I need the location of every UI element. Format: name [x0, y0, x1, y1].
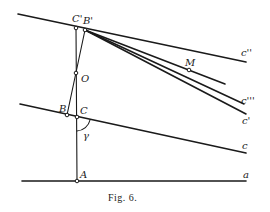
- line-through-m: [85, 30, 225, 84]
- point-c-prime: [74, 26, 78, 30]
- label-line-c-triple-prime: c''': [241, 95, 255, 106]
- point-b-prime: [83, 28, 87, 32]
- label-o: O: [81, 73, 89, 84]
- point-a: [75, 179, 79, 183]
- point-c: [75, 115, 79, 119]
- label-m: M: [184, 57, 196, 68]
- label-c-prime: C': [72, 13, 82, 24]
- label-b-prime: B': [82, 15, 93, 26]
- label-b: B: [58, 103, 66, 114]
- point-o: [74, 71, 78, 75]
- label-line-c-double-prime: c'': [241, 47, 252, 58]
- line-c-prime: [85, 30, 246, 114]
- figure-caption: Fig. 6.: [108, 192, 137, 203]
- label-line-c-prime: c': [242, 115, 250, 126]
- label-line-a: a: [243, 169, 249, 180]
- point-m: [187, 68, 191, 72]
- line-c-triple-prime: [85, 30, 244, 104]
- label-line-c: c: [242, 140, 248, 151]
- line-c: [20, 104, 246, 153]
- figure-diagram: C' B' O B C A M γ c'' c''' c' c a Fig. 6…: [0, 0, 270, 212]
- label-gamma: γ: [83, 130, 89, 141]
- label-c: C: [80, 105, 88, 116]
- label-a: A: [79, 169, 87, 180]
- line-perpendicular-ac: [76, 28, 77, 181]
